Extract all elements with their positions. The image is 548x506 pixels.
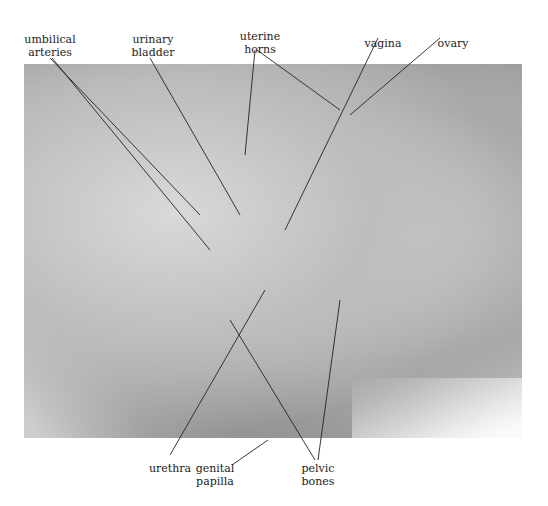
label-line: bladder xyxy=(118,46,188,59)
leader-lines xyxy=(0,0,548,506)
label-genital-papilla: genital papilla xyxy=(190,462,240,488)
label-pelvic-bones: pelvic bones xyxy=(296,462,340,488)
label-line: arteries xyxy=(10,46,90,59)
label-line: urinary xyxy=(118,33,188,46)
label-line: umbilical xyxy=(10,33,90,46)
dissection-figure: umbilical arteries urinary bladder uteri… xyxy=(0,0,548,506)
label-line: bones xyxy=(296,475,340,488)
label-vagina: vagina xyxy=(358,37,408,50)
label-ovary: ovary xyxy=(428,37,478,50)
label-urinary-bladder: urinary bladder xyxy=(118,33,188,59)
label-uterine-horns: uterine horns xyxy=(230,30,290,56)
label-line: genital xyxy=(190,462,240,475)
label-umbilical-arteries: umbilical arteries xyxy=(10,33,90,59)
label-line: horns xyxy=(230,43,290,56)
label-line: pelvic xyxy=(296,462,340,475)
label-line: papilla xyxy=(190,475,240,488)
label-line: uterine xyxy=(230,30,290,43)
